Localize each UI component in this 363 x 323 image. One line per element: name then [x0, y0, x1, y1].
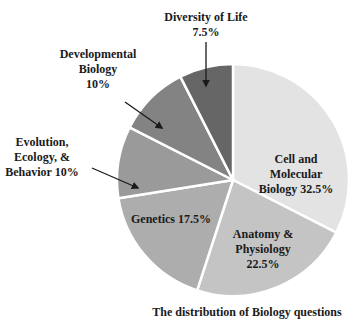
chart-title: The distribution of Biology questions: [152, 305, 342, 319]
slice-label: Genetics 17.5%: [131, 212, 211, 226]
pie-chart: Cell andMolecularBiology 32.5%Anatomy &P…: [0, 0, 363, 323]
slice-label: Evolution,Ecology, &Behavior 10%: [5, 135, 78, 179]
slice-label: DevelopmentalBiology10%: [60, 47, 137, 91]
slice-label: Diversity of Life7.5%: [164, 10, 248, 39]
